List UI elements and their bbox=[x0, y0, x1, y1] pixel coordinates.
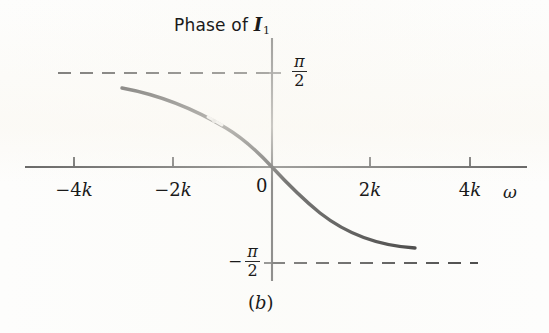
x-tick-label-2k-num: 2 bbox=[359, 179, 370, 200]
figure-caption: (b) bbox=[248, 294, 274, 312]
fraction-denominator: 2 bbox=[245, 262, 260, 279]
x-tick-label-minus-4k-unit: k bbox=[82, 179, 93, 200]
fraction-denominator: 2 bbox=[292, 72, 307, 89]
x-tick-label-2k: 2k bbox=[359, 181, 381, 199]
fraction-pi-over-2: π2 bbox=[292, 54, 307, 89]
x-axis-label-omega: ω bbox=[503, 184, 517, 201]
fraction-numerator: π bbox=[292, 54, 307, 72]
y-tick-label-minus-pi-over-2: −π2 bbox=[228, 244, 260, 279]
x-tick-label-minus-4k-num: 4 bbox=[70, 179, 81, 200]
x-tick-label-4k: 4k bbox=[459, 181, 481, 199]
origin-label: 0 bbox=[256, 177, 267, 195]
caption-open-paren: ( bbox=[248, 292, 255, 313]
plot-title-subscript: 1 bbox=[263, 24, 270, 37]
x-tick-label-minus-2k: −2k bbox=[154, 181, 191, 199]
y-tick-label-pi-over-2: π2 bbox=[292, 54, 307, 89]
fraction-numerator: π bbox=[245, 244, 260, 262]
x-tick-label-minus-4k-sign: − bbox=[55, 179, 70, 200]
plot-title-prefix: Phase of bbox=[174, 15, 254, 35]
fraction-minus-pi-over-2: π2 bbox=[245, 244, 260, 279]
x-tick-label-minus-2k-sign: − bbox=[154, 179, 169, 200]
x-tick-label-minus-2k-unit: k bbox=[181, 179, 192, 200]
plot-title: Phase of I1 bbox=[174, 16, 270, 36]
caption-close-paren: ) bbox=[267, 292, 274, 313]
scan-artifact-dot bbox=[212, 119, 216, 123]
x-tick-label-minus-2k-num: 2 bbox=[169, 179, 180, 200]
plot-title-symbol: I bbox=[254, 14, 263, 35]
x-tick-label-4k-num: 4 bbox=[459, 179, 470, 200]
minus-sign: − bbox=[228, 253, 242, 270]
x-tick-label-2k-unit: k bbox=[370, 179, 381, 200]
x-tick-label-minus-4k: −4k bbox=[55, 181, 92, 199]
caption-letter: b bbox=[255, 292, 267, 313]
x-tick-label-4k-unit: k bbox=[470, 179, 481, 200]
plot-canvas bbox=[0, 0, 549, 333]
figure-panel: Phase of I1 −4k −2k 2k 4k 0 ω π2 −π2 (b) bbox=[0, 0, 549, 333]
